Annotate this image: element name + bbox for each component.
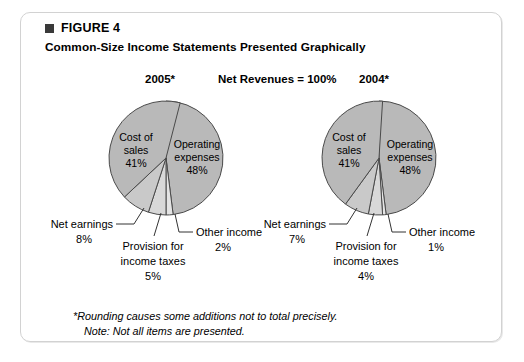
footnote-note: Note: Not all items are presented. <box>84 324 337 339</box>
heading-right-year: 2004* <box>359 73 389 85</box>
heading-left-year: 2005* <box>145 73 175 85</box>
figure-label: FIGURE 4 <box>61 21 120 35</box>
square-bullet-icon <box>45 24 54 33</box>
figure-footnotes: *Rounding causes some additions not to t… <box>73 309 337 338</box>
heading-net-revenues: Net Revenues = 100% <box>218 73 337 85</box>
figure-card: FIGURE 4 Common-Size Income Statements P… <box>20 12 502 342</box>
footnote-rounding: *Rounding causes some additions not to t… <box>73 309 337 324</box>
figure-header: FIGURE 4 Common-Size Income Statements P… <box>45 21 366 54</box>
figure-title: Common-Size Income Statements Presented … <box>45 40 366 54</box>
